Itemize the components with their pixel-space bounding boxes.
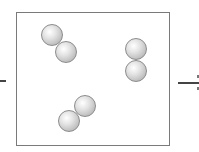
atom-3b: [58, 110, 80, 132]
right-output-line: [178, 82, 199, 84]
left-input-line: [0, 80, 6, 82]
atom-2b: [125, 60, 147, 82]
right-arrow-glyph-bottom: [197, 87, 199, 90]
container-box: [16, 12, 170, 146]
atom-1b: [55, 41, 77, 63]
right-arrow-glyph-top: [197, 75, 199, 78]
atom-2a: [125, 38, 147, 60]
